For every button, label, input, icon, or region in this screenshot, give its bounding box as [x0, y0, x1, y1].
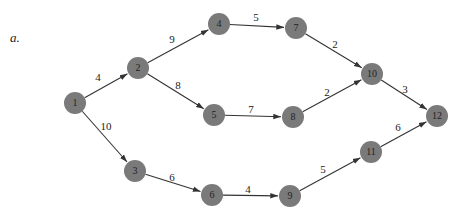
node-label: 8: [291, 111, 296, 122]
edge-8-10: [303, 80, 362, 112]
node-3: 3: [124, 160, 146, 182]
edge-weight-label: 7: [248, 103, 254, 115]
node-5: 5: [203, 104, 225, 126]
node-6: 6: [201, 184, 223, 206]
network-diagram: 41098576422536 123456789101112: [0, 0, 462, 220]
node-label: 1: [73, 97, 78, 108]
node-label: 2: [136, 62, 141, 73]
node-label: 9: [288, 190, 293, 201]
edge-weight-label: 4: [245, 183, 251, 195]
edge-weight-label: 2: [324, 86, 330, 98]
node-label: 6: [210, 189, 215, 200]
edge-weight-label: 5: [253, 11, 259, 23]
node-label: 11: [366, 146, 376, 157]
edge-weight-label: 5: [320, 163, 326, 175]
edge-11-12: [381, 122, 427, 147]
edge-6-9: [223, 195, 278, 196]
edge-weight-label: 6: [169, 171, 175, 183]
node-12: 12: [426, 105, 448, 127]
edge-4-7: [230, 25, 284, 28]
node-1: 1: [64, 92, 86, 114]
node-11: 11: [360, 141, 382, 163]
edge-1-2: [85, 74, 128, 98]
node-label: 12: [432, 110, 442, 121]
node-label: 5: [212, 109, 217, 120]
node-label: 10: [367, 68, 377, 79]
node-8: 8: [282, 106, 304, 128]
edge-weight-label: 2: [332, 38, 338, 50]
node-4: 4: [208, 13, 230, 35]
node-label: 7: [294, 22, 299, 33]
node-label: 3: [133, 165, 138, 176]
edge-weight-label: 9: [169, 33, 175, 45]
node-label: 4: [217, 18, 222, 29]
node-9: 9: [279, 185, 301, 207]
edge-5-8: [225, 115, 281, 116]
edge-9-11: [300, 158, 361, 191]
edge-2-4: [148, 30, 209, 63]
node-10: 10: [361, 63, 383, 85]
edge-weight-label: 3: [402, 83, 408, 95]
node-2: 2: [127, 57, 149, 79]
edge-weight-label: 4: [95, 71, 101, 83]
edge-weight-label: 8: [175, 79, 181, 91]
edge-weight-label: 6: [395, 121, 401, 133]
edge-weight-label: 10: [101, 120, 113, 132]
node-7: 7: [285, 17, 307, 39]
nodes-group: 123456789101112: [64, 13, 448, 207]
